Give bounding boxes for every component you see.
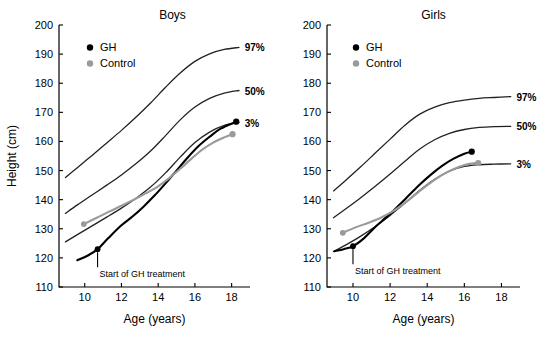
legend-marker-control xyxy=(87,60,93,66)
growth-chart-figure: 1101201301401501601701801902001012141618… xyxy=(0,0,559,337)
panel-title: Boys xyxy=(159,8,186,22)
series-curve-control xyxy=(343,163,478,233)
series-end-marker-gh xyxy=(233,119,239,125)
y-tick-label: 120 xyxy=(35,252,53,264)
percentile-label-50pct: 50% xyxy=(517,121,537,132)
series-end-marker-control xyxy=(229,131,235,137)
percentile-label-97pct: 97% xyxy=(517,92,537,103)
x-tick-label: 18 xyxy=(226,291,238,303)
series-end-marker-gh xyxy=(469,149,475,155)
x-tick-label: 16 xyxy=(189,291,201,303)
legend-marker-gh xyxy=(353,44,359,50)
percentile-label-97pct: 97% xyxy=(245,42,265,53)
percentile-curve-97pct xyxy=(65,47,239,177)
x-tick-label: 16 xyxy=(458,291,470,303)
x-tick-label: 10 xyxy=(79,291,91,303)
y-tick-label: 180 xyxy=(35,77,53,89)
annotation-label-start-of-gh-treatment: Start of GH treatment xyxy=(355,266,441,276)
y-tick-label: 200 xyxy=(303,19,321,31)
x-tick-label: 14 xyxy=(421,291,433,303)
y-tick-label: 150 xyxy=(35,165,53,177)
legend-label-control: Control xyxy=(366,57,401,69)
y-tick-label: 170 xyxy=(35,106,53,118)
percentile-label-50pct: 50% xyxy=(245,86,265,97)
annotation-label-start-of-gh-treatment: Start of GH treatment xyxy=(100,269,186,279)
x-tick-label: 12 xyxy=(384,291,396,303)
y-tick-label: 180 xyxy=(303,77,321,89)
panel-boys: 1101201301401501601701801902001012141618… xyxy=(0,0,280,337)
series-start-marker-gh xyxy=(350,243,356,249)
x-tick-label: 12 xyxy=(115,291,127,303)
series-curve-control xyxy=(84,134,233,224)
legend-marker-control xyxy=(353,60,359,66)
legend-label-control: Control xyxy=(100,57,135,69)
series-start-marker-control xyxy=(340,230,346,236)
y-tick-label: 140 xyxy=(303,194,321,206)
panel-girls: 1101201301401501601701801902001012141618… xyxy=(280,0,559,337)
percentile-label-3pct: 3% xyxy=(245,118,260,129)
legend-label-gh: GH xyxy=(366,41,383,53)
y-tick-label: 160 xyxy=(303,135,321,147)
percentile-label-3pct: 3% xyxy=(517,159,532,170)
y-tick-label: 130 xyxy=(303,223,321,235)
y-tick-label: 150 xyxy=(303,165,321,177)
y-axis-title: Height (cm) xyxy=(5,125,19,187)
y-tick-label: 120 xyxy=(303,252,321,264)
y-tick-label: 190 xyxy=(35,48,53,60)
percentile-curve-97pct xyxy=(334,97,511,191)
legend-label-gh: GH xyxy=(100,41,117,53)
chart-canvas-girls: 1101201301401501601701801902001012141618… xyxy=(280,0,559,337)
percentile-curve-50pct xyxy=(334,126,511,217)
percentile-curve-3pct xyxy=(334,164,511,252)
y-tick-label: 200 xyxy=(35,19,53,31)
x-tick-label: 18 xyxy=(495,291,507,303)
y-tick-label: 170 xyxy=(303,106,321,118)
y-tick-label: 130 xyxy=(35,223,53,235)
series-end-marker-control xyxy=(475,160,481,166)
series-start-marker-control xyxy=(81,221,87,227)
panel-title: Girls xyxy=(421,8,446,22)
y-tick-label: 140 xyxy=(35,194,53,206)
y-tick-label: 190 xyxy=(303,48,321,60)
y-tick-label: 160 xyxy=(35,135,53,147)
x-axis-title: Age (years) xyxy=(123,312,185,326)
legend-marker-gh xyxy=(87,44,93,50)
chart-canvas-boys: 1101201301401501601701801902001012141618… xyxy=(0,0,280,337)
y-tick-label: 110 xyxy=(303,281,321,293)
y-tick-label: 110 xyxy=(35,281,53,293)
x-tick-label: 14 xyxy=(152,291,164,303)
series-start-marker-gh xyxy=(95,246,101,252)
x-tick-label: 10 xyxy=(347,291,359,303)
percentile-curve-3pct xyxy=(65,123,239,242)
x-axis-title: Age (years) xyxy=(392,312,454,326)
percentile-curve-50pct xyxy=(65,91,239,214)
